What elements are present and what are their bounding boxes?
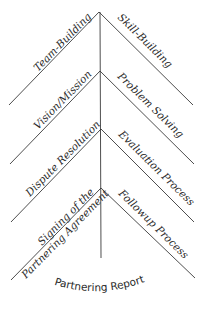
partnering-diagram: Team-Building Skill-Building Vision/Miss… bbox=[0, 0, 203, 309]
chevron-2-left-label: Vision/Mission bbox=[31, 68, 94, 132]
chevron-2: Vision/Mission Problem Solving bbox=[10, 68, 194, 164]
chevron-3-left-label: Dispute Resolution bbox=[22, 118, 102, 199]
diagram-title-path: Partnering Report bbox=[53, 273, 145, 294]
chevron-4: Signing of the Partnering Agreement Foll… bbox=[11, 186, 195, 282]
diagram-title: Partnering Report bbox=[53, 273, 145, 294]
chevron-1-right-label: Skill-Building bbox=[116, 11, 176, 70]
chevron-1-left-label: Team-Building bbox=[31, 10, 94, 73]
spine-line bbox=[100, 12, 101, 258]
chevron-1: Team-Building Skill-Building bbox=[9, 10, 193, 105]
